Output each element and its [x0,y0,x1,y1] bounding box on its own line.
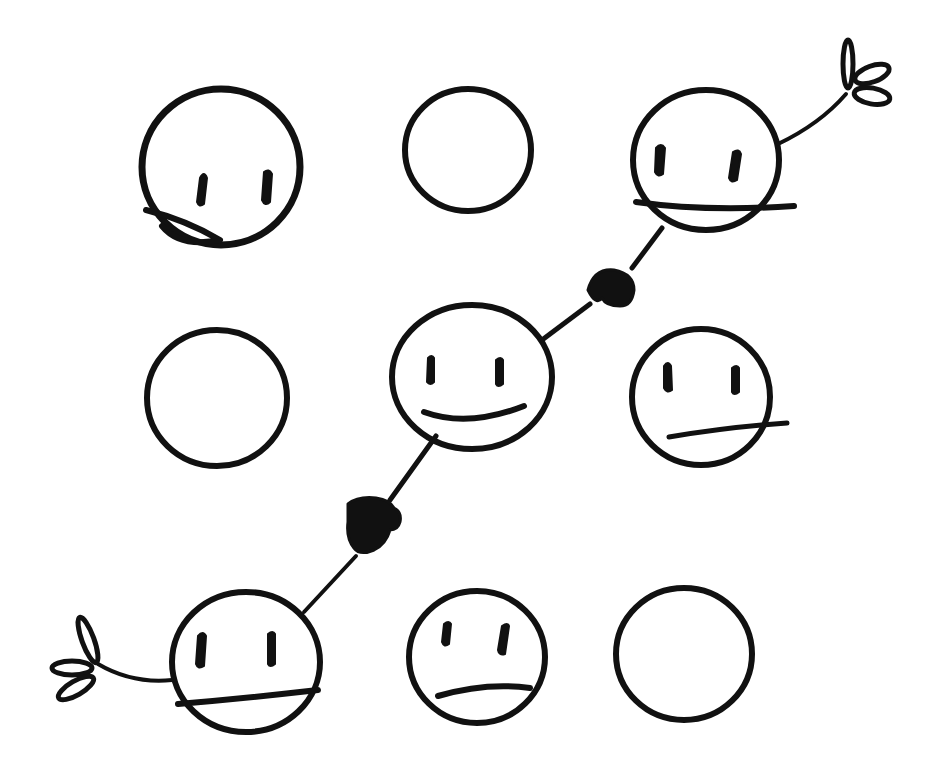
flower-petal-icon [853,85,891,107]
flower-petal-icon [74,615,102,664]
chin-line [146,210,220,242]
empty-circle-outline [616,588,752,720]
face-top-right [633,40,892,230]
smile-mouth [424,406,524,419]
left-eye-icon [197,174,207,206]
face-outline [142,89,300,245]
handshake-icon [588,270,634,306]
left-eye-icon [655,145,665,176]
left-eye-icon [664,363,672,392]
face-top-left [142,89,300,245]
left-eye-icon [427,356,434,384]
left-eye-icon [196,633,206,668]
face-outline [632,329,770,465]
face-bottom-middle [409,591,545,723]
connection-center-to-bottom-left [304,436,436,612]
empty-circle-outline [147,330,287,466]
flower-petal-icon [852,60,891,87]
sketch-canvas [0,0,944,774]
right-eye-icon [498,624,509,655]
face-outline [392,305,552,449]
arm-line [542,304,590,340]
arm-line [390,436,436,500]
right-eye-icon [732,366,739,394]
arm-line [304,556,356,612]
mouth-line [669,423,787,437]
empty-circle-outline [405,89,531,211]
right-eye-icon [496,358,503,386]
arm-line [98,664,172,681]
mouth-line [178,690,318,704]
mouth-line [438,686,530,696]
circle-top-middle [405,89,531,211]
connection-center-to-top-right [542,228,662,340]
arm-line [632,228,662,268]
right-eye-icon [262,170,272,204]
face-middle-right [632,329,787,465]
flower-petal-icon [843,40,853,88]
face-outline [409,591,545,723]
left-eye-icon [442,622,451,646]
flower-icon [52,615,102,704]
face-bottom-left [52,592,320,732]
mouth-line [636,202,794,208]
right-eye-icon [729,150,741,181]
face-center [392,305,552,449]
circle-middle-left [147,330,287,466]
right-eye-icon [268,632,275,666]
arm-line [778,94,846,144]
flower-icon [843,40,892,107]
circle-bottom-right [616,588,752,720]
flower-petal-icon [52,661,92,675]
face-outline [172,592,320,732]
handshake-icon [348,498,401,553]
